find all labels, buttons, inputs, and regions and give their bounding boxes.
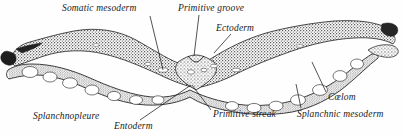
- primitive-groove-leader: [194, 15, 199, 56]
- label-splanchnic-mesoderm: Splanchnic mesoderm: [297, 110, 384, 120]
- label-primitive-streak: Primitive streak: [213, 110, 276, 120]
- label-somatic-mesoderm: Somatic mesoderm: [62, 4, 136, 14]
- label-primitive-groove: Primitive groove: [178, 4, 244, 14]
- label-entoderm: Entoderm: [114, 122, 153, 132]
- label-splanchnopleure: Splanchnopleure: [33, 112, 99, 122]
- label-coelom: Cœlom: [328, 93, 356, 103]
- label-ectoderm: Ectoderm: [216, 24, 254, 34]
- embryo-section-figure: Somatic mesoderm Primitive groove Ectode…: [0, 0, 405, 136]
